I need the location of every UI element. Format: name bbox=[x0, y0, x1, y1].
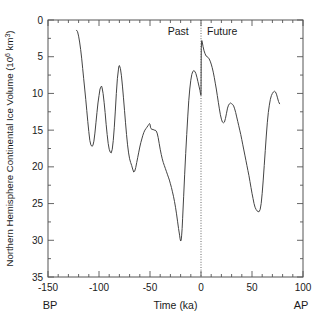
bp-label: BP bbox=[43, 299, 58, 311]
x-tick-label: -150 bbox=[38, 282, 58, 293]
x-tick-label: -50 bbox=[143, 282, 158, 293]
y-tick-label: 20 bbox=[32, 161, 44, 172]
y-tick-label: 15 bbox=[32, 125, 44, 136]
y-tick-label: 30 bbox=[32, 235, 44, 246]
ice-volume-curve-future bbox=[201, 41, 280, 212]
chart-canvas: -150-100-5005010005101520253035PastFutur… bbox=[0, 0, 331, 328]
future-label: Future bbox=[207, 25, 238, 37]
y-tick-label: 35 bbox=[32, 272, 44, 283]
y-tick-label: 10 bbox=[32, 88, 44, 99]
y-tick-label: 25 bbox=[32, 198, 44, 209]
past-label: Past bbox=[168, 25, 189, 37]
plot-frame bbox=[48, 20, 303, 277]
x-tick-label: 0 bbox=[198, 282, 204, 293]
ice-volume-curve-past bbox=[77, 30, 201, 241]
x-axis-title: Time (ka) bbox=[154, 299, 198, 311]
ap-label: AP bbox=[294, 299, 309, 311]
y-axis-title: Northern Hemisphere Continental Ice Volu… bbox=[4, 30, 15, 266]
ice-volume-chart-figure: -150-100-5005010005101520253035PastFutur… bbox=[0, 0, 331, 328]
x-tick-label: -100 bbox=[89, 282, 109, 293]
y-tick-label: 0 bbox=[37, 15, 43, 26]
x-tick-label: 100 bbox=[295, 282, 312, 293]
x-tick-label: 50 bbox=[246, 282, 258, 293]
y-tick-label: 5 bbox=[37, 51, 43, 62]
